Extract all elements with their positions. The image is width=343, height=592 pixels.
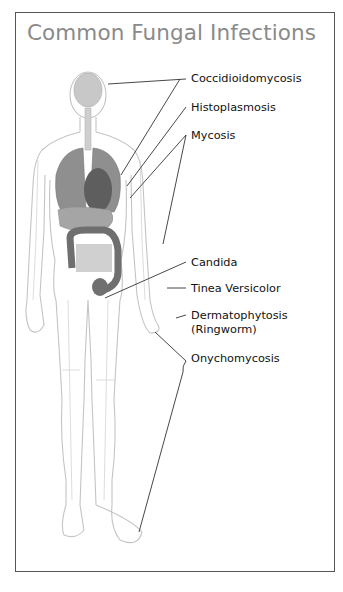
leader-histoplasmosis-2 xyxy=(127,107,186,186)
label-dermatophytosis-line1: Dermatophytosis xyxy=(191,309,288,323)
label-mycosis: Mycosis xyxy=(191,129,235,143)
leader-onychomycosis-hand xyxy=(155,332,186,361)
leader-coccidioidomycosis xyxy=(108,79,186,84)
leader-mycosis-arm xyxy=(163,135,186,244)
left-lung xyxy=(56,148,86,212)
brain xyxy=(74,73,102,107)
label-candida: Candida xyxy=(191,256,237,270)
human-body-illustration xyxy=(0,0,343,592)
label-dermatophytosis-line2: (Ringworm) xyxy=(191,323,288,337)
leader-dermatophytosis xyxy=(176,315,186,318)
trachea xyxy=(85,108,91,150)
bladder xyxy=(92,278,108,296)
label-histoplasmosis: Histoplasmosis xyxy=(191,101,276,115)
label-tinea-versicolor: Tinea Versicolor xyxy=(191,282,281,296)
label-coccidioidomycosis: Coccidioidomycosis xyxy=(191,72,302,86)
label-onychomycosis: Onychomycosis xyxy=(191,352,280,366)
body-outline xyxy=(26,72,159,543)
small-intestine xyxy=(76,244,112,272)
label-dermatophytosis: Dermatophytosis (Ringworm) xyxy=(191,309,288,337)
leader-onychomycosis-foot xyxy=(139,361,186,532)
heart xyxy=(84,168,112,212)
leader-lines xyxy=(105,79,186,532)
